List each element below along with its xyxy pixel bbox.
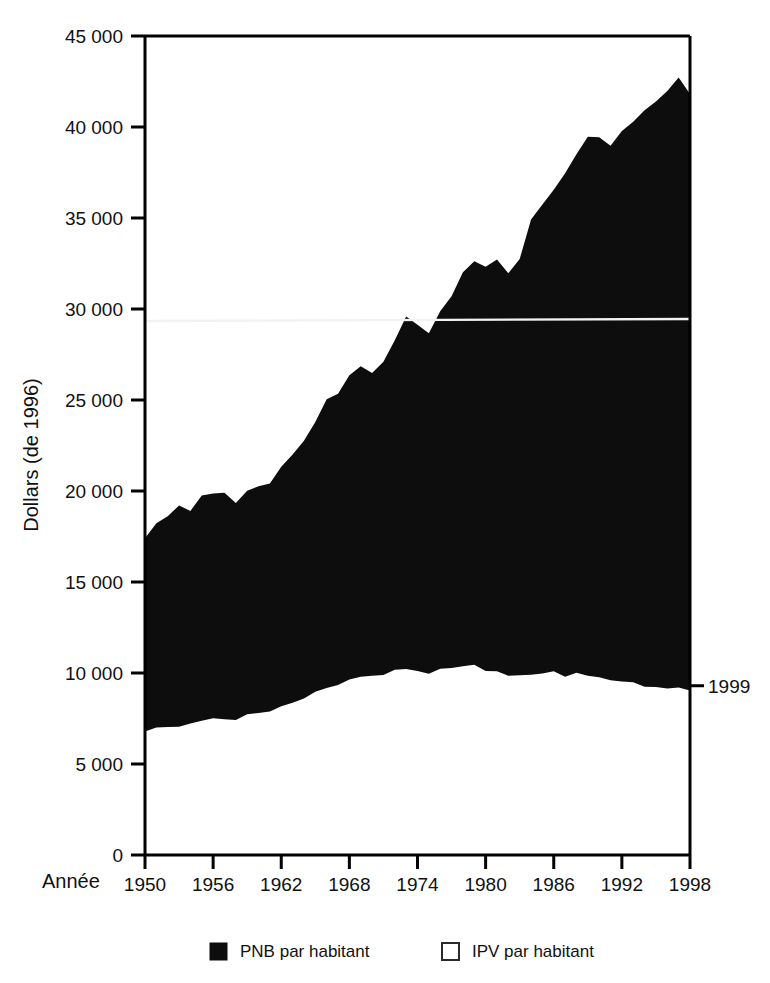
x-axis-title: Année [42,870,100,892]
x-tick-label-1986: 1986 [533,874,575,895]
y-tick-label-15000: 15 000 [65,572,123,593]
x-tick-label-1992: 1992 [601,874,643,895]
legend-swatch-pnb-icon [210,943,227,960]
x-tick-label-1968: 1968 [328,874,370,895]
x-tick-label-1998: 1998 [669,874,711,895]
y-tick-label-30000: 30 000 [65,299,123,320]
chart-figure: 05 00010 00015 00020 00025 00030 00035 0… [0,0,770,983]
x-tick-label-1956: 1956 [192,874,234,895]
y-tick-label-45000: 45 000 [65,26,123,47]
y-tick-label-0: 0 [112,845,123,866]
gnp-vs-gpi-area-chart: 05 00010 00015 00020 00025 00030 00035 0… [0,0,770,983]
y-tick-label-20000: 20 000 [65,481,123,502]
y-tick-label-10000: 10 000 [65,663,123,684]
y-tick-label-40000: 40 000 [65,117,123,138]
x-tick-label-1974: 1974 [396,874,439,895]
legend-swatch-ipv-icon [442,943,459,960]
y-axis-title: Dollars (de 1996) [20,378,42,531]
year-marker-1999-label: 1999 [708,676,750,697]
legend-label-ipv: IPV par habitant [472,942,594,961]
y-tick-label-25000: 25 000 [65,390,123,411]
x-tick-label-1962: 1962 [260,874,302,895]
x-axis-ticks: 195019561962196819741980198619921998 [124,855,711,895]
y-tick-label-35000: 35 000 [65,208,123,229]
x-tick-label-1980: 1980 [464,874,506,895]
x-tick-label-1950: 1950 [124,874,166,895]
y-tick-label-5000: 5 000 [75,754,123,775]
legend-label-pnb: PNB par habitant [240,942,370,961]
